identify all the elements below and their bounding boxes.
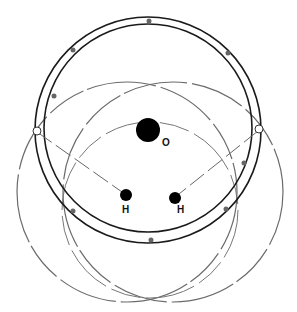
electron xyxy=(242,161,247,166)
electron xyxy=(147,19,152,24)
hydrogen-atom-left xyxy=(120,189,132,201)
electron xyxy=(71,48,76,53)
electron xyxy=(52,94,57,99)
hydrogen-atom-right xyxy=(169,192,181,204)
electron xyxy=(149,238,154,243)
shared-electron-right xyxy=(255,125,263,133)
electron xyxy=(71,209,76,214)
hydrogen-orbital-right xyxy=(63,82,283,302)
oxygen-label: O xyxy=(162,137,170,148)
shared-electron-left xyxy=(33,127,41,135)
hydrogen-label-left: H xyxy=(122,204,129,215)
oxygen-atom xyxy=(136,118,160,142)
water-molecule-diagram: O H H xyxy=(0,0,297,312)
electron xyxy=(224,207,229,212)
hydrogen-label-right: H xyxy=(177,204,184,215)
electron xyxy=(226,51,231,56)
